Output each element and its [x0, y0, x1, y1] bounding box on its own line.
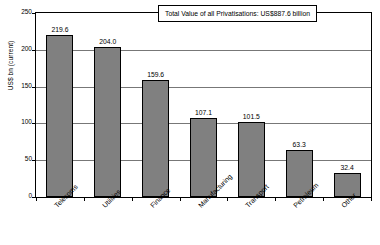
x-axis-tick-labels: TelecomsUtilitiesFinanceManufacturingTra…	[35, 200, 372, 245]
plot-area: 219.6204.0159.6107.1101.563.332.4	[35, 12, 372, 198]
y-axis-tick-mark	[32, 87, 36, 88]
bar-value-label: 63.3	[293, 141, 306, 148]
bar-value-label: 219.6	[51, 26, 68, 33]
y-axis-tick-mark	[32, 50, 36, 51]
bar	[190, 118, 217, 197]
y-axis-tick-mark	[32, 123, 36, 124]
y-axis-tick-mark	[32, 160, 36, 161]
y-axis-tick-label: 50	[12, 156, 32, 163]
bar-value-label: 107.1	[195, 109, 212, 116]
bar	[334, 173, 361, 197]
bar	[94, 47, 121, 197]
y-axis-tick-label: 250	[12, 9, 32, 16]
bar-value-label: 159.6	[147, 71, 164, 78]
plot-inner: 219.6204.0159.6107.1101.563.332.4	[36, 13, 371, 197]
y-axis-tick-label: 100	[12, 119, 32, 126]
bar	[142, 80, 169, 197]
y-axis-tick-labels: 050100150200250	[10, 0, 32, 245]
bar-value-label: 101.5	[243, 113, 260, 120]
total-value-annotation: Total Value of all Privatisations: US$88…	[158, 5, 317, 22]
bar-value-label: 32.4	[340, 164, 353, 171]
y-axis-tick-label: 0	[12, 193, 32, 200]
y-axis-tick-mark	[32, 13, 36, 14]
gridline	[36, 50, 371, 51]
bar	[46, 35, 73, 197]
gridline	[36, 87, 371, 88]
bar-value-label: 204.0	[99, 38, 116, 45]
y-axis-tick-label: 150	[12, 82, 32, 89]
bar-chart: US$ bn (current) 050100150200250 219.620…	[0, 0, 380, 245]
y-axis-tick-label: 200	[12, 46, 32, 53]
